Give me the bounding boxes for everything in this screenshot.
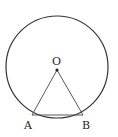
label-b: B bbox=[82, 119, 90, 132]
label-a: A bbox=[23, 119, 33, 132]
center-point bbox=[55, 68, 58, 71]
radius-oa bbox=[32, 70, 57, 115]
radius-ob bbox=[57, 70, 83, 115]
circle-diagram: O A B bbox=[0, 0, 118, 137]
label-o: O bbox=[52, 55, 61, 68]
